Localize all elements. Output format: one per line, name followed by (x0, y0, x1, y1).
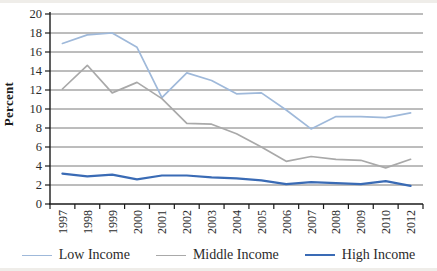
x-tick-label: 2003 (205, 210, 219, 234)
x-tick-label: 2004 (230, 210, 244, 234)
legend: Low IncomeMiddle IncomeHigh Income (0, 243, 437, 267)
x-tick-label: 2000 (131, 210, 145, 234)
legend-line-swatch (156, 255, 186, 256)
y-tick-label: 8 (36, 121, 42, 135)
y-axis-ticks (45, 14, 50, 204)
y-tick-label: 0 (36, 197, 42, 211)
line-chart: 0246810121416182019971998199920002001200… (0, 0, 437, 243)
legend-label: Low Income (59, 247, 130, 263)
x-tick-label: 2007 (305, 210, 319, 234)
legend-label: High Income (342, 247, 415, 263)
x-tick-label: 2002 (180, 210, 194, 234)
x-tick-label: 2008 (329, 210, 343, 234)
x-tick-label: 2001 (155, 210, 169, 234)
x-tick-label: 2010 (379, 210, 393, 234)
series-line-low-income (62, 33, 410, 129)
x-tick-label: 1999 (106, 210, 120, 234)
y-tick-label: 18 (30, 26, 43, 40)
y-tick-label: 20 (30, 7, 43, 21)
legend-label: Middle Income (193, 247, 279, 263)
legend-item-low-income: Low Income (22, 247, 130, 263)
y-tick-label: 2 (36, 178, 42, 192)
x-tick-label: 2006 (280, 210, 294, 234)
x-tick-label: 1998 (81, 210, 95, 234)
y-tick-label: 12 (30, 83, 43, 97)
series-line-high-income (62, 174, 410, 186)
x-tick-label: 1997 (56, 210, 70, 234)
legend-line-swatch (305, 254, 335, 256)
x-axis-ticks (50, 204, 423, 209)
y-tick-label: 16 (30, 45, 43, 59)
figure: 0246810121416182019971998199920002001200… (0, 0, 437, 271)
legend-line-swatch (22, 255, 52, 256)
x-tick-label: 2009 (354, 210, 368, 234)
x-axis-tick-labels: 1997199819992000200120022003200420052006… (56, 210, 418, 234)
x-tick-label: 2012 (404, 210, 418, 234)
y-tick-label: 14 (30, 64, 43, 78)
y-tick-label: 4 (36, 159, 43, 173)
x-tick-label: 2005 (255, 210, 269, 234)
legend-item-high-income: High Income (305, 247, 415, 263)
y-tick-label: 6 (36, 140, 42, 154)
gridlines (50, 14, 423, 185)
y-axis-title: Percent (1, 64, 17, 144)
y-axis-tick-labels: 02468101214161820 (30, 7, 43, 211)
y-tick-label: 10 (30, 102, 43, 116)
legend-item-middle-income: Middle Income (156, 247, 279, 263)
